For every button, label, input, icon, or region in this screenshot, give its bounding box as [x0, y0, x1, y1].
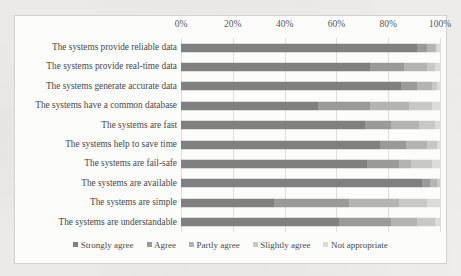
chart-row: The systems are fast	[181, 116, 440, 135]
bar-segment-not-appropriate[interactable]	[437, 82, 440, 91]
chart-frame: 0%20%40%60%80%100% The systems provide r…	[14, 15, 447, 264]
bar-segment-agree[interactable]	[370, 63, 404, 72]
bar-segment-partly-agree[interactable]	[370, 101, 409, 110]
chart-row: The systems have a common database	[181, 96, 440, 115]
bar-segment-agree[interactable]	[401, 82, 417, 91]
category-label: The systems are fail-safe	[84, 159, 177, 168]
chart-row: The systems are understandable	[181, 213, 440, 232]
bar-segment-strongly-agree[interactable]	[181, 43, 417, 52]
stacked-bar[interactable]	[181, 63, 440, 72]
bar-segment-strongly-agree[interactable]	[181, 101, 318, 110]
bar-segment-agree[interactable]	[274, 198, 349, 207]
stacked-bar[interactable]	[181, 218, 440, 227]
chart-row: The systems are fail-safe	[181, 154, 440, 173]
x-axis-tick-80: 80%	[379, 19, 396, 29]
category-label: The systems are understandable	[59, 218, 178, 227]
bar-segment-slightly-agree[interactable]	[417, 218, 435, 227]
category-label: The systems provide reliable data	[52, 43, 177, 52]
bar-segment-partly-agree[interactable]	[417, 82, 433, 91]
stacked-bar[interactable]	[181, 179, 440, 188]
legend-item-strongly-agree[interactable]: Strongly agree	[73, 240, 133, 250]
legend-label: Strongly agree	[81, 240, 134, 250]
bar-segment-strongly-agree[interactable]	[181, 82, 401, 91]
bar-segment-strongly-agree[interactable]	[181, 218, 339, 227]
chart-row: The systems are available	[181, 174, 440, 193]
bar-segment-not-appropriate[interactable]	[435, 63, 440, 72]
legend-label: Partly agree	[197, 240, 240, 250]
bar-segment-partly-agree[interactable]	[391, 218, 417, 227]
stacked-bar[interactable]	[181, 101, 440, 110]
chart-row: The systems are simple	[181, 193, 440, 212]
stacked-bar[interactable]	[181, 82, 440, 91]
legend-item-slightly-agree[interactable]: Slightly agree	[253, 240, 311, 250]
x-axis-tick-40: 40%	[276, 19, 293, 29]
bar-segment-strongly-agree[interactable]	[181, 140, 380, 149]
bar-segment-slightly-agree[interactable]	[399, 198, 427, 207]
legend-item-partly-agree[interactable]: Partly agree	[189, 240, 240, 250]
bar-segment-not-appropriate[interactable]	[432, 101, 440, 110]
bar-segment-slightly-agree[interactable]	[427, 140, 437, 149]
bar-segment-slightly-agree[interactable]	[437, 179, 440, 188]
bar-segment-partly-agree[interactable]	[349, 198, 398, 207]
bar-segment-partly-agree[interactable]	[399, 160, 412, 169]
stacked-bar[interactable]	[181, 160, 440, 169]
bar-segment-strongly-agree[interactable]	[181, 160, 367, 169]
bar-segment-not-appropriate[interactable]	[432, 160, 440, 169]
bar-segment-partly-agree[interactable]	[430, 179, 438, 188]
bar-segment-partly-agree[interactable]	[427, 43, 435, 52]
legend-label: Slightly agree	[260, 240, 310, 250]
legend-swatch-icon	[323, 242, 328, 247]
category-label: The systems are fast	[101, 121, 177, 130]
bar-segment-slightly-agree[interactable]	[419, 121, 435, 130]
x-axis-tick-0: 0%	[175, 19, 188, 29]
bar-segment-agree[interactable]	[367, 160, 398, 169]
chart-row: The systems provide reliable data	[181, 38, 440, 57]
bar-segment-agree[interactable]	[365, 121, 391, 130]
bar-segment-not-appropriate[interactable]	[435, 218, 440, 227]
bar-segment-not-appropriate[interactable]	[437, 140, 440, 149]
category-label: The systems are available	[81, 179, 177, 188]
bar-segment-agree[interactable]	[422, 179, 430, 188]
category-label: The systems help to save time	[65, 140, 177, 149]
bar-segment-agree[interactable]	[318, 101, 370, 110]
legend-item-not-appropriate[interactable]: Not appropriate	[323, 240, 387, 250]
x-axis-tick-20: 20%	[224, 19, 241, 29]
bar-segment-slightly-agree[interactable]	[411, 160, 432, 169]
chart-row: The systems provide real-time data	[181, 57, 440, 76]
bar-segment-partly-agree[interactable]	[406, 140, 427, 149]
bar-segment-strongly-agree[interactable]	[181, 179, 422, 188]
bar-segment-not-appropriate[interactable]	[437, 43, 440, 52]
plot-area: The systems provide reliable dataThe sys…	[181, 38, 440, 232]
legend-swatch-icon	[147, 242, 152, 247]
legend-swatch-icon	[189, 242, 194, 247]
category-label: The systems generate accurate data	[46, 82, 177, 91]
x-axis-tick-labels: 0%20%40%60%80%100%	[181, 19, 440, 35]
gridline-100	[440, 38, 441, 232]
legend-item-agree[interactable]: Agree	[147, 240, 177, 250]
bar-segment-strongly-agree[interactable]	[181, 121, 365, 130]
category-label: The systems have a common database	[35, 101, 177, 110]
bar-segment-agree[interactable]	[380, 140, 406, 149]
stacked-bar[interactable]	[181, 140, 440, 149]
legend-label: Agree	[154, 240, 176, 250]
legend-label: Not appropriate	[331, 240, 388, 250]
bar-rows: The systems provide reliable dataThe sys…	[181, 38, 440, 232]
chart-legend: Strongly agreeAgreePartly agreeSlightly …	[14, 240, 447, 250]
x-axis-tick-60: 60%	[328, 19, 345, 29]
bar-segment-slightly-agree[interactable]	[427, 63, 435, 72]
bar-segment-agree[interactable]	[339, 218, 391, 227]
bar-segment-partly-agree[interactable]	[404, 63, 427, 72]
bar-segment-partly-agree[interactable]	[391, 121, 419, 130]
stacked-bar[interactable]	[181, 43, 440, 52]
category-label: The systems are simple	[90, 198, 177, 207]
stacked-bar[interactable]	[181, 121, 440, 130]
bar-segment-agree[interactable]	[417, 43, 427, 52]
bar-segment-strongly-agree[interactable]	[181, 198, 274, 207]
bar-segment-not-appropriate[interactable]	[427, 198, 440, 207]
bar-segment-slightly-agree[interactable]	[409, 101, 432, 110]
bar-segment-strongly-agree[interactable]	[181, 63, 370, 72]
bar-segment-not-appropriate[interactable]	[435, 121, 440, 130]
category-label: The systems provide real-time data	[46, 62, 177, 71]
chart-row: The systems help to save time	[181, 135, 440, 154]
stacked-bar[interactable]	[181, 198, 440, 207]
